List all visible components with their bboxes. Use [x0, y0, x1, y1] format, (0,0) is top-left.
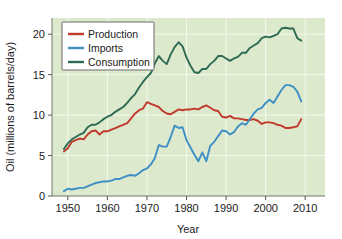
legend-label-production: Production	[88, 28, 138, 40]
x-tick-label: 1960	[95, 202, 119, 214]
y-tick-label: 10	[33, 109, 45, 121]
x-tick-label: 1980	[174, 202, 198, 214]
y-tick-label: 0	[39, 190, 45, 202]
y-axis-title: Oil (millions of barrels/day)	[4, 42, 16, 172]
y-tick-label: 20	[33, 28, 45, 40]
legend-label-consumption: Consumption	[88, 56, 150, 68]
x-tick-label: 1990	[214, 202, 238, 214]
legend: ProductionImportsConsumption	[62, 22, 154, 70]
legend-label-imports: Imports	[88, 42, 123, 54]
x-tick-label: 2000	[253, 202, 277, 214]
x-axis-title: Year	[177, 223, 200, 235]
x-tick-label: 2010	[293, 202, 317, 214]
x-tick-label: 1950	[56, 202, 80, 214]
oil-chart-figure: 051015201950196019701980199020002010 Yea…	[0, 0, 342, 239]
y-tick-label: 15	[33, 69, 45, 81]
x-tick-label: 1970	[135, 202, 159, 214]
chart-svg: 051015201950196019701980199020002010 Yea…	[0, 0, 342, 239]
y-tick-label: 5	[39, 150, 45, 162]
